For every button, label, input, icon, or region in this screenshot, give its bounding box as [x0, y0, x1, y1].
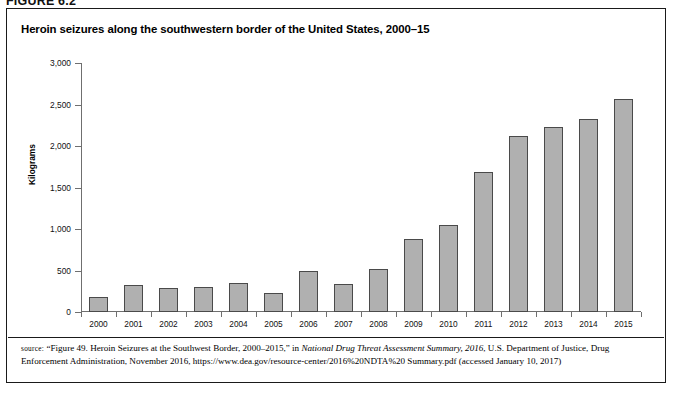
- bar-2011[interactable]: [474, 172, 493, 312]
- x-axis-tick: [396, 312, 397, 317]
- source-publication-title: National Drug Threat Assessment Summary,…: [301, 343, 483, 353]
- bar-2015[interactable]: [614, 99, 633, 312]
- x-axis-tick: [641, 312, 642, 317]
- x-axis-label-2006: 2006: [291, 319, 326, 333]
- bar-slot: [536, 63, 571, 312]
- bar-slot: [151, 63, 186, 312]
- bar-2010[interactable]: [439, 225, 458, 312]
- x-axis-label-2001: 2001: [116, 319, 151, 333]
- x-axis-label-2013: 2013: [536, 319, 571, 333]
- bar-2006[interactable]: [299, 271, 318, 312]
- x-axis-tick: [256, 312, 257, 317]
- x-axis-tick: [291, 312, 292, 317]
- bar-2000[interactable]: [89, 297, 108, 312]
- bar-slot: [256, 63, 291, 312]
- y-axis-tick-label: 2,000: [50, 141, 71, 151]
- bar-2003[interactable]: [194, 287, 213, 312]
- source-prefix: source:: [21, 344, 44, 353]
- chart-title: Heroin seizures along the southwestern b…: [21, 23, 429, 35]
- x-axis-tick: [81, 312, 82, 317]
- axis-area: 05001,0001,5002,0002,5003,000: [81, 63, 641, 312]
- x-axis-tick: [186, 312, 187, 317]
- x-axis-label-2002: 2002: [151, 319, 186, 333]
- figure-container: Heroin seizures along the southwestern b…: [6, 8, 666, 383]
- x-axis-label-2012: 2012: [501, 319, 536, 333]
- bar-slot: [396, 63, 431, 312]
- x-axis-tick: [361, 312, 362, 317]
- bar-slot: [186, 63, 221, 312]
- y-axis-tick-label: 1,500: [50, 183, 71, 193]
- y-axis-tick-label: 3,000: [50, 58, 71, 68]
- bar-slot: [116, 63, 151, 312]
- bar-2014[interactable]: [579, 119, 598, 312]
- x-axis-tick: [501, 312, 502, 317]
- figure-page: FIGURE 6.2 Heroin seizures along the sou…: [0, 0, 677, 394]
- bar-2004[interactable]: [229, 283, 248, 312]
- y-axis-tick-label: 0: [66, 307, 71, 317]
- x-axis-label-2005: 2005: [256, 319, 291, 333]
- y-axis-tick-label: 1,000: [50, 224, 71, 234]
- y-axis-tick-label: 500: [57, 266, 71, 276]
- bar-slot: [326, 63, 361, 312]
- y-axis-tick-label: 2,500: [50, 100, 71, 110]
- bar-slot: [571, 63, 606, 312]
- bar-slot: [466, 63, 501, 312]
- x-axis-label-2004: 2004: [221, 319, 256, 333]
- bar-2008[interactable]: [369, 269, 388, 312]
- source-note: source: “Figure 49. Heroin Seizures at t…: [21, 342, 651, 367]
- x-axis-tick: [326, 312, 327, 317]
- bar-slot: [221, 63, 256, 312]
- x-axis-labels: 2000200120022003200420052006200720082009…: [81, 319, 641, 333]
- x-axis-tick: [536, 312, 537, 317]
- x-axis-tick: [221, 312, 222, 317]
- x-axis-label-2011: 2011: [466, 319, 501, 333]
- bar-slot: [291, 63, 326, 312]
- x-axis-label-2003: 2003: [186, 319, 221, 333]
- bar-2005[interactable]: [264, 293, 283, 313]
- x-axis-tick: [431, 312, 432, 317]
- bar-2001[interactable]: [124, 285, 143, 312]
- x-axis-label-2009: 2009: [396, 319, 431, 333]
- x-axis-tick: [116, 312, 117, 317]
- x-axis-tick: [151, 312, 152, 317]
- x-axis-tick: [466, 312, 467, 317]
- figure-number-label: FIGURE 6.2: [6, 0, 76, 6]
- y-axis-label: Kilograms: [27, 144, 37, 185]
- bar-2013[interactable]: [544, 127, 563, 312]
- bar-2002[interactable]: [159, 288, 178, 312]
- bar-2012[interactable]: [509, 136, 528, 312]
- bar-slot: [81, 63, 116, 312]
- source-text-1: “Figure 49. Heroin Seizures at the South…: [44, 343, 301, 353]
- bar-2009[interactable]: [404, 239, 423, 312]
- bar-2007[interactable]: [334, 284, 353, 312]
- x-axis-tick: [571, 312, 572, 317]
- bar-slot: [431, 63, 466, 312]
- x-axis-label-2010: 2010: [431, 319, 466, 333]
- bar-series: [81, 63, 641, 312]
- source-divider: [8, 337, 664, 338]
- x-axis-label-2015: 2015: [606, 319, 641, 333]
- bar-slot: [501, 63, 536, 312]
- x-axis-tick: [606, 312, 607, 317]
- x-axis-label-2008: 2008: [361, 319, 396, 333]
- x-axis-label-2007: 2007: [326, 319, 361, 333]
- x-axis-label-2014: 2014: [571, 319, 606, 333]
- bar-slot: [361, 63, 396, 312]
- bar-slot: [606, 63, 641, 312]
- plot-area: Kilograms 05001,0001,5002,0002,5003,000 …: [21, 53, 651, 331]
- x-axis-label-2000: 2000: [81, 319, 116, 333]
